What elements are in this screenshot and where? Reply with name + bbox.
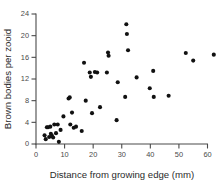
x-tick-label-40: 40	[146, 150, 154, 159]
y-tick-label-8: 8	[25, 96, 29, 105]
data-point	[88, 70, 92, 74]
data-point	[48, 125, 52, 129]
data-point	[151, 69, 155, 73]
x-tick-label-60: 60	[203, 150, 211, 159]
x-axis-title: Distance from growing edge (mm)	[50, 169, 195, 180]
y-tick-label-4: 4	[25, 118, 29, 127]
data-point	[135, 75, 139, 79]
data-point	[184, 51, 188, 55]
y-tick-label-0: 0	[25, 139, 29, 148]
data-point	[80, 129, 84, 133]
x-axis-ticks: 0102030405060	[34, 144, 212, 159]
data-point	[212, 53, 216, 57]
data-point	[57, 140, 61, 144]
data-point	[44, 137, 48, 141]
x-tick-label-10: 10	[60, 150, 68, 159]
x-tick-label-0: 0	[34, 150, 38, 159]
x-tick-label-50: 50	[175, 150, 183, 159]
y-tick-label-16: 16	[21, 53, 29, 62]
data-point	[74, 125, 78, 129]
data-point	[68, 122, 72, 126]
data-point	[70, 111, 74, 115]
data-point	[43, 133, 47, 137]
data-point	[124, 22, 128, 26]
data-point	[125, 32, 129, 36]
plot-canvas: 04812162024 0102030405060 Distance from …	[0, 0, 224, 189]
data-point	[148, 86, 152, 90]
data-point	[82, 61, 86, 65]
data-point	[68, 95, 72, 99]
data-point	[98, 105, 102, 109]
scatter-plot-figure: 04812162024 0102030405060 Distance from …	[0, 0, 224, 189]
data-point	[54, 131, 58, 135]
data-point	[84, 99, 88, 103]
data-point	[191, 59, 195, 63]
data-point	[95, 70, 99, 74]
data-point	[105, 70, 109, 74]
data-point	[51, 135, 55, 139]
y-tick-label-24: 24	[21, 9, 29, 18]
data-point	[90, 111, 94, 115]
y-tick-label-12: 12	[21, 74, 29, 83]
data-point	[89, 75, 93, 79]
data-point	[116, 80, 120, 84]
y-axis-ticks: 04812162024	[21, 9, 36, 148]
data-point	[115, 118, 119, 122]
data-point	[167, 94, 171, 98]
x-tick-label-30: 30	[118, 150, 126, 159]
data-point	[59, 128, 63, 132]
data-points-layer	[43, 22, 216, 144]
y-axis-title: Brown bodies per zooid	[2, 29, 13, 129]
data-point	[61, 114, 65, 118]
x-tick-label-20: 20	[89, 150, 97, 159]
data-point	[126, 48, 130, 52]
data-point	[152, 95, 156, 99]
y-tick-label-20: 20	[21, 31, 29, 40]
data-point	[123, 95, 127, 99]
data-point	[56, 122, 60, 126]
data-point	[107, 54, 111, 58]
